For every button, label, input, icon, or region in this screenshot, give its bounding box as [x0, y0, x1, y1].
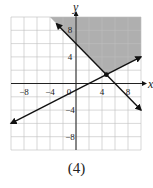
shaded-region [50, 17, 141, 75]
y-tick-label: 8 [68, 25, 73, 35]
y-tick-label: 4 [68, 52, 73, 62]
figure-caption: (4) [0, 160, 153, 177]
x-axis-label: x [147, 77, 153, 91]
graph: xy−8−404884−4−8 [0, 0, 153, 160]
intersection-point [104, 72, 109, 77]
x-tick-label: −8 [19, 87, 29, 97]
y-tick-label: −8 [65, 132, 75, 142]
y-axis-label: y [72, 0, 79, 14]
x-tick-label: 4 [100, 87, 105, 97]
x-tick-label: −4 [45, 87, 55, 97]
y-tick-label: −4 [65, 105, 75, 115]
